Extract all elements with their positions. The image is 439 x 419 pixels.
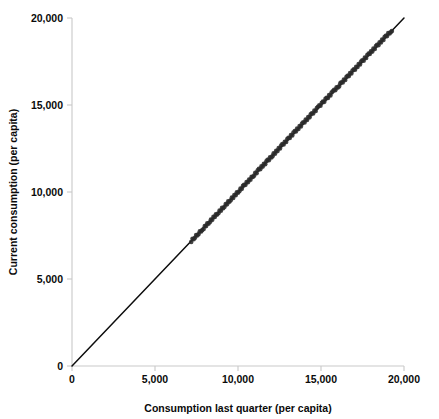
x-tick-label: 15,000	[305, 373, 337, 385]
y-axis-title: Current consumption (per capita)	[7, 109, 19, 275]
y-tick-label: 10,000	[31, 186, 63, 198]
y-tick-label: 0	[57, 360, 63, 372]
y-tick-label: 20,000	[31, 12, 63, 24]
x-tick-label: 5,000	[142, 373, 168, 385]
y-tick-label: 5,000	[37, 273, 63, 285]
y-tick-label: 15,000	[31, 99, 63, 111]
scatter-plot-figure: 05,00010,00015,00020,000 05,00010,00015,…	[0, 0, 439, 419]
x-tick-label: 20,000	[388, 373, 420, 385]
x-tick-label: 10,000	[222, 373, 254, 385]
x-axis-title: Consumption last quarter (per capita)	[144, 402, 331, 414]
data-point	[390, 29, 395, 34]
x-tick-label: 0	[69, 373, 75, 385]
chart-canvas: 05,00010,00015,00020,000 05,00010,00015,…	[0, 0, 439, 419]
